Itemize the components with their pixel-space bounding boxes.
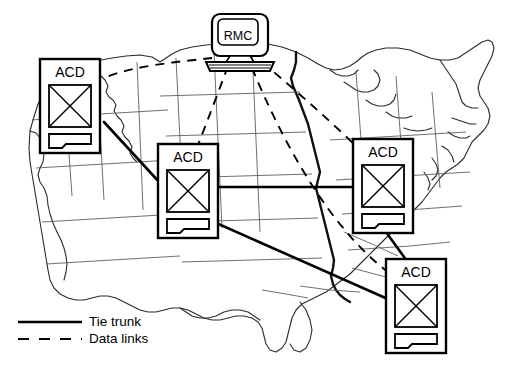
diagram-canvas: RMC ACD ACD ACD	[0, 0, 522, 381]
legend-item-data-links: Data links	[18, 331, 149, 346]
acd-northwest-label: ACD	[55, 64, 85, 80]
rmc-keyboard	[206, 62, 274, 71]
legend-label-tie-trunk: Tie trunk	[89, 314, 141, 329]
acd-northeast-label: ACD	[368, 144, 398, 160]
acd-central-label: ACD	[173, 149, 203, 165]
node-rmc[interactable]: RMC	[206, 14, 274, 71]
legend: Tie trunk Data links	[18, 314, 149, 346]
network-map-diagram: RMC ACD ACD ACD	[0, 0, 522, 381]
node-acd-northeast[interactable]: ACD	[353, 139, 413, 233]
legend-item-tie-trunk: Tie trunk	[18, 314, 141, 329]
node-acd-southeast[interactable]: ACD	[386, 259, 446, 353]
node-acd-central[interactable]: ACD	[158, 144, 218, 238]
acd-southeast-label: ACD	[401, 264, 431, 280]
node-acd-northwest[interactable]: ACD	[40, 59, 100, 153]
legend-label-data-links: Data links	[89, 331, 149, 346]
rmc-label: RMC	[224, 29, 252, 43]
